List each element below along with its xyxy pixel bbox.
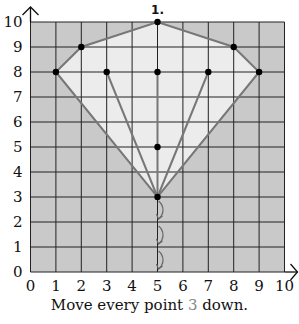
shape-point — [104, 69, 110, 75]
y-tick-label: 1 — [13, 238, 23, 256]
shape-point — [205, 69, 211, 75]
shape-point — [256, 69, 262, 75]
y-tick-label: 10 — [3, 13, 22, 31]
y-tick-label: 8 — [13, 63, 23, 81]
y-tick-label: 6 — [13, 113, 23, 131]
x-tick-label: 0 — [26, 277, 36, 295]
problem-number: 1. — [151, 3, 164, 17]
x-tick-label: 7 — [204, 277, 214, 295]
x-tick-label: 4 — [127, 277, 137, 295]
x-tick-label: 9 — [254, 277, 264, 295]
x-tick-label: 2 — [77, 277, 87, 295]
y-tick-label: 9 — [13, 38, 23, 56]
x-tick-label: 3 — [102, 277, 112, 295]
y-tick-label: 2 — [13, 213, 23, 231]
instruction-text: Move every point 3 down. — [0, 296, 299, 314]
shape-point — [154, 19, 160, 25]
shape-point — [53, 69, 59, 75]
shape-point — [154, 144, 160, 150]
x-tick-label: 1 — [51, 277, 61, 295]
coordinate-grid-figure: 0123456789100123456789101. — [0, 0, 299, 296]
x-tick-label: 6 — [178, 277, 188, 295]
shape-point — [231, 44, 237, 50]
y-tick-label: 3 — [13, 188, 23, 206]
x-tick-label: 8 — [229, 277, 239, 295]
shape-point — [154, 69, 160, 75]
y-tick-label: 7 — [13, 88, 23, 106]
shape-point — [78, 44, 84, 50]
shape-point — [154, 194, 160, 200]
x-tick-label: 10 — [275, 277, 294, 295]
y-tick-label: 4 — [13, 163, 23, 181]
y-tick-label: 0 — [13, 263, 23, 281]
x-tick-label: 5 — [153, 277, 163, 295]
y-tick-label: 5 — [13, 138, 23, 156]
